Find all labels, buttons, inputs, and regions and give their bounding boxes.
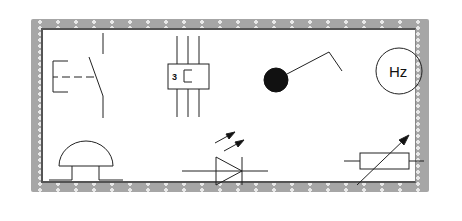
switch-symbol: [53, 33, 103, 118]
photodiode-symbol: [182, 132, 268, 185]
ball-switch-symbol: [264, 52, 342, 92]
thermal-relay-label: 3: [172, 72, 177, 82]
symbol-canvas: Hz 3: [0, 0, 462, 221]
bell-symbol: [49, 141, 123, 180]
variable-resistor-symbol: [344, 135, 424, 185]
frequency-meter-label: Hz: [389, 63, 407, 80]
